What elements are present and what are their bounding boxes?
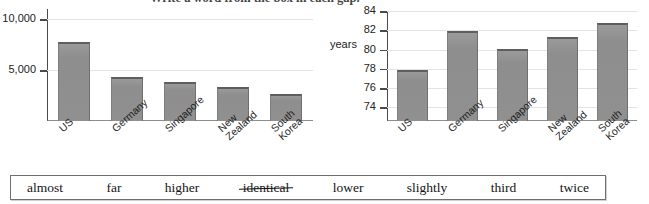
y-axis-tick: [380, 30, 387, 32]
y-axis-tick-label: 5,000: [0, 63, 36, 75]
y-axis-tick: [380, 50, 387, 52]
word-bank-list: almostfarhigheridenticallowerslightlythi…: [11, 176, 605, 199]
y-axis-tick-label: 84: [330, 4, 376, 16]
y-axis-tick: [40, 70, 47, 72]
y-axis-tick-label: 74: [330, 100, 376, 112]
word-bank-item[interactable]: higher: [165, 180, 200, 196]
word-bank-item[interactable]: identical: [243, 180, 289, 196]
y-axis-tick: [380, 69, 387, 71]
word-bank-item[interactable]: almost: [27, 180, 63, 196]
word-bank-item[interactable]: slightly: [407, 180, 448, 196]
bar-chart-health-spending: 10,0005,000 USGermanySingaporeNew Zealan…: [0, 0, 320, 170]
y-axis-tick: [40, 19, 47, 21]
gridline: [387, 11, 637, 12]
y-axis-tick-label: 82: [330, 23, 376, 35]
gridline: [47, 19, 313, 20]
y-axis-tick-label: 10,000: [0, 12, 36, 24]
y-axis-tick-label: 78: [330, 62, 376, 74]
bar: [597, 23, 628, 121]
y-axis-tick: [380, 88, 387, 90]
y-axis-tick: [380, 11, 387, 13]
bar: [397, 70, 428, 121]
word-bank-item[interactable]: lower: [333, 180, 364, 196]
bar-chart-life-expectancy: years 848280787674 USGermanySingaporeNew…: [330, 0, 649, 170]
y-axis-tick-label: 76: [330, 81, 376, 93]
word-bank-box: almostfarhigheridenticallowerslightlythi…: [10, 175, 606, 200]
y-axis-tick-label: 80: [330, 43, 376, 55]
bar: [58, 42, 90, 121]
y-axis-tick: [380, 107, 387, 109]
word-bank-item[interactable]: third: [491, 180, 517, 196]
word-bank-item[interactable]: twice: [560, 180, 589, 196]
word-bank-item[interactable]: far: [106, 180, 121, 196]
